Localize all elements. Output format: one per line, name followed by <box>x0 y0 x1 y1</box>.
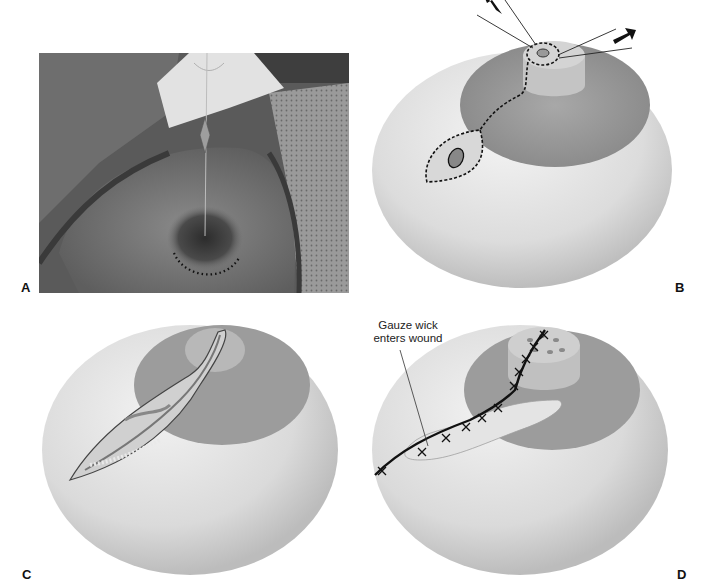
panel-d <box>370 310 680 575</box>
illustration-b <box>360 0 680 295</box>
panel-label-c: C <box>22 567 31 582</box>
callout-line-2: enters wound <box>363 332 453 345</box>
gauze-wick-callout: Gauze wick enters wound <box>363 319 453 345</box>
panel-label-b: B <box>675 280 684 295</box>
illustration-d <box>370 310 680 575</box>
clinical-photo <box>39 53 349 293</box>
panel-c <box>40 310 350 575</box>
arrow-up-left-icon <box>484 0 502 14</box>
panel-label-d: D <box>677 567 686 582</box>
arrow-up-right-icon <box>613 28 636 44</box>
illustration-c <box>40 310 350 575</box>
panel-label-a: A <box>21 280 30 295</box>
panel-a <box>39 53 349 293</box>
callout-line-1: Gauze wick <box>363 319 453 332</box>
panel-b <box>360 0 680 295</box>
